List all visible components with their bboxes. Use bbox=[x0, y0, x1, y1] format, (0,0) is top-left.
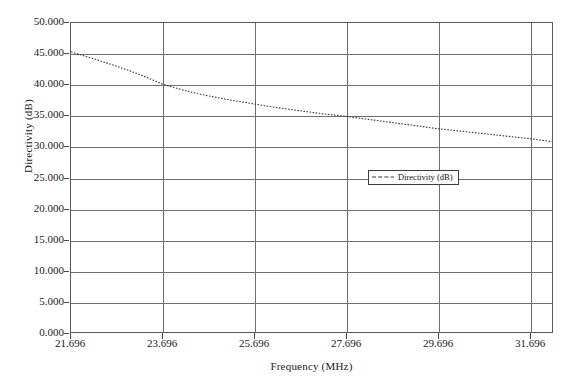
y-tick-label: 35.000 bbox=[0, 108, 64, 120]
y-tick-label: 20.000 bbox=[0, 202, 64, 214]
x-tick-mark bbox=[254, 333, 255, 339]
y-tick-label: 45.000 bbox=[0, 46, 64, 58]
y-tick-label: 5.000 bbox=[0, 295, 64, 307]
y-tick-label: 50.000 bbox=[0, 15, 64, 27]
directivity-series-line bbox=[71, 52, 552, 142]
x-tick-mark bbox=[438, 333, 439, 339]
y-tick-mark bbox=[64, 271, 69, 272]
x-tick-mark bbox=[530, 333, 531, 339]
y-tick-mark bbox=[64, 84, 69, 85]
y-tick-mark bbox=[64, 240, 69, 241]
chart-legend: Directivity (dB) bbox=[368, 170, 459, 185]
x-tick-mark bbox=[346, 333, 347, 339]
y-tick-mark bbox=[64, 53, 69, 54]
y-tick-mark bbox=[64, 302, 69, 303]
x-tick-mark bbox=[70, 333, 71, 339]
y-tick-label: 15.000 bbox=[0, 233, 64, 245]
y-tick-mark bbox=[64, 115, 69, 116]
y-tick-label: 30.000 bbox=[0, 139, 64, 151]
y-tick-mark bbox=[64, 146, 69, 147]
y-tick-mark bbox=[64, 333, 69, 334]
y-tick-label: 25.000 bbox=[0, 171, 64, 183]
legend-label: Directivity (dB) bbox=[398, 173, 453, 182]
plot-area bbox=[70, 22, 553, 333]
page-bottom-artifact bbox=[0, 379, 577, 388]
series-layer bbox=[71, 23, 552, 332]
y-tick-label: 10.000 bbox=[0, 264, 64, 276]
chart-figure: Directivity (dB) 0.0005.00010.00015.0002… bbox=[0, 0, 577, 388]
x-axis-title: Frequency (MHz) bbox=[70, 360, 553, 372]
legend-line-swatch bbox=[372, 174, 394, 180]
y-tick-mark bbox=[64, 22, 69, 23]
y-tick-label: 40.000 bbox=[0, 77, 64, 89]
y-tick-mark bbox=[64, 178, 69, 179]
x-tick-mark bbox=[162, 333, 163, 339]
y-tick-mark bbox=[64, 209, 69, 210]
